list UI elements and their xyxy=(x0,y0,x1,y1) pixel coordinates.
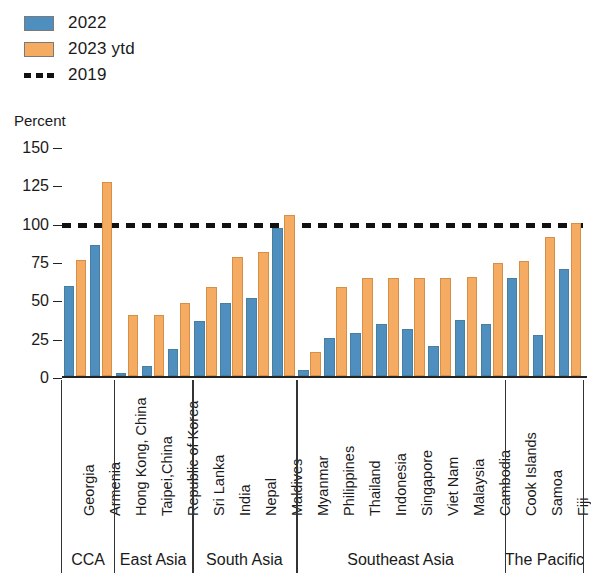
y-axis-tick-label: 50 xyxy=(15,292,49,310)
category-label-Indonesia: Indonesia xyxy=(393,453,409,516)
bar-2023-ytd-Philippines xyxy=(336,287,347,376)
region-label-the-pacific: The Pacific xyxy=(505,551,583,569)
bar-2022-Malaysia xyxy=(455,320,466,377)
category-label-Nepal: Nepal xyxy=(263,478,279,516)
group-separator-edge xyxy=(583,380,584,520)
region-label-southeast-asia: Southeast Asia xyxy=(296,551,504,569)
category-label-Georgia: Georgia xyxy=(81,464,97,516)
bar-2023-ytd-Sri-Lanka xyxy=(206,287,217,376)
bar-2022-Taipei-China xyxy=(142,366,153,377)
bar-2023-ytd-Samoa xyxy=(545,237,556,377)
category-label-Singapore: Singapore xyxy=(419,450,435,516)
bar-2023-ytd-Thailand xyxy=(362,278,373,376)
y-axis-tick-mark-icon xyxy=(53,378,62,379)
legend-item-2019: 2019 xyxy=(24,62,135,88)
bar-2022-Viet-Nam xyxy=(428,346,439,377)
bar-2022-Cambodia xyxy=(481,324,492,376)
bar-2023-ytd-Indonesia xyxy=(388,278,399,376)
category-label-Viet-Nam: Viet Nam xyxy=(445,457,461,516)
y-axis-tick-150: 150 xyxy=(15,139,62,157)
bar-series-container xyxy=(62,148,583,376)
region-separator xyxy=(192,520,193,573)
category-label-Thailand: Thailand xyxy=(367,460,383,516)
bar-2022-Samoa xyxy=(533,335,544,376)
y-axis-tick-125: 125 xyxy=(15,177,62,195)
category-label-band: GeorgiaArmeniaHong Kong, ChinaTaipei,Chi… xyxy=(62,380,583,520)
category-label-Hong-Kong-China: Hong Kong, China xyxy=(133,398,149,517)
y-axis-tick-label: 25 xyxy=(15,331,49,349)
category-label-Sri-Lanka: Sri Lanka xyxy=(211,455,227,516)
y-axis-tick-25: 25 xyxy=(15,331,62,349)
region-label-east-asia: East Asia xyxy=(114,551,192,569)
y-axis-tick-100: 100 xyxy=(15,216,62,234)
bar-2022-Sri-Lanka xyxy=(194,321,205,376)
x-axis-baseline xyxy=(62,376,587,378)
y-axis-tick-0: 0 xyxy=(15,369,62,387)
legend-label-2023: 2023 ytd xyxy=(68,39,135,59)
bar-2023-ytd-Myanmar xyxy=(310,352,321,377)
bar-2022-Fiji xyxy=(559,269,570,376)
bar-2022-Thailand xyxy=(350,333,361,376)
bar-2022-Republic-of-Korea xyxy=(168,349,179,377)
category-label-Samoa: Samoa xyxy=(549,470,565,516)
bar-2023-ytd-Taipei-China xyxy=(154,315,165,376)
category-label-Taipei-China: Taipei,China xyxy=(159,436,175,516)
legend-swatch-icon-2022 xyxy=(24,16,54,31)
region-separator xyxy=(505,520,506,573)
y-axis-tick-mark-icon xyxy=(53,186,62,187)
group-separator-edge xyxy=(61,380,62,520)
bar-2022-Cook-Islands xyxy=(507,278,518,376)
y-axis-tick-50: 50 xyxy=(15,292,62,310)
legend-dashed-line-icon-2019 xyxy=(24,68,54,83)
region-label-band: CCAEast AsiaSouth AsiaSoutheast AsiaThe … xyxy=(62,520,583,573)
bar-2022-India xyxy=(220,303,231,377)
bar-2023-ytd-Georgia xyxy=(76,260,87,377)
region-separator xyxy=(583,520,584,573)
region-separator xyxy=(61,520,62,573)
plot-area: 0255075100125150 xyxy=(62,148,583,378)
group-separator xyxy=(192,380,193,520)
y-axis-tick-label: 0 xyxy=(15,369,49,387)
y-axis-tick-label: 125 xyxy=(15,177,49,195)
region-label-cca: CCA xyxy=(62,551,114,569)
category-label-India: India xyxy=(237,485,253,516)
region-separator xyxy=(296,520,297,573)
y-axis-tick-label: 100 xyxy=(15,216,49,234)
y-axis-tick-label: 150 xyxy=(15,139,49,157)
bar-2022-Philippines xyxy=(324,338,335,376)
y-axis-tick-mark-icon xyxy=(53,301,62,302)
category-label-Philippines: Philippines xyxy=(341,446,357,516)
bar-2022-Singapore xyxy=(402,329,413,377)
y-axis-tick-75: 75 xyxy=(15,254,62,272)
bar-2022-Indonesia xyxy=(376,324,387,376)
group-separator xyxy=(296,380,297,520)
y-axis-tick-mark-icon xyxy=(53,340,62,341)
legend-item-2022: 2022 xyxy=(24,10,135,36)
chart-legend: 2022 2023 ytd 2019 xyxy=(24,10,135,88)
bar-2023-ytd-Fiji xyxy=(571,223,582,376)
category-label-Cook-Islands: Cook Islands xyxy=(523,432,539,516)
bar-2023-ytd-India xyxy=(232,257,243,377)
bar-2023-ytd-Nepal xyxy=(258,252,269,376)
bar-2023-ytd-Republic-of-Korea xyxy=(180,303,191,377)
category-label-Myanmar: Myanmar xyxy=(315,456,331,516)
y-axis-tick-label: 75 xyxy=(15,254,49,272)
bar-2023-ytd-Cambodia xyxy=(493,263,504,376)
legend-label-2022: 2022 xyxy=(68,13,107,33)
bar-2023-ytd-Armenia xyxy=(102,182,113,377)
legend-item-2023-ytd: 2023 ytd xyxy=(24,36,135,62)
y-axis-tick-mark-icon xyxy=(53,148,62,149)
region-separator xyxy=(114,520,115,573)
legend-label-2019: 2019 xyxy=(68,65,107,85)
bar-2023-ytd-Viet-Nam xyxy=(440,278,451,376)
bar-2022-Maldives xyxy=(272,228,283,377)
bar-2023-ytd-Cook-Islands xyxy=(519,261,530,376)
legend-swatch-icon-2023 xyxy=(24,42,54,57)
region-label-south-asia: South Asia xyxy=(192,551,296,569)
group-separator xyxy=(505,380,506,520)
group-separator xyxy=(114,380,115,520)
bar-2022-Georgia xyxy=(64,286,75,376)
bar-2023-ytd-Hong-Kong-China xyxy=(128,315,139,376)
category-label-Malaysia: Malaysia xyxy=(471,459,487,516)
bar-2023-ytd-Malaysia xyxy=(467,277,478,377)
